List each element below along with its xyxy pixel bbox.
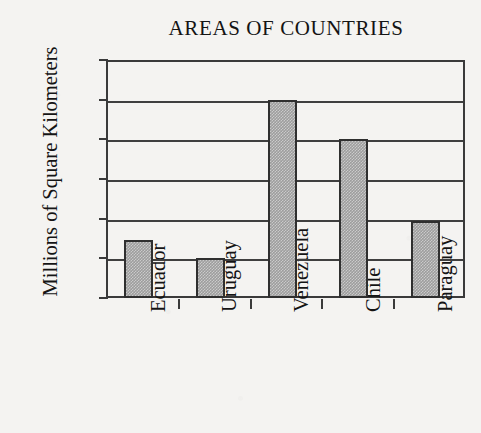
bars-layer [106,60,465,298]
bar [124,240,153,298]
x-tick-mark [393,299,395,309]
bar [268,100,297,298]
y-axis-title: Millions of Square Kilometers [39,32,62,312]
x-tick-mark [250,299,252,309]
bar [411,221,440,298]
bar [196,258,225,298]
bar [339,139,368,298]
bar-chart-figure: AREAS OF COUNTRIES Millions of Square Ki… [0,0,481,433]
x-tick-mark [321,299,323,309]
chart-title: AREAS OF COUNTRIES [106,16,466,41]
x-tick-mark [178,299,180,309]
